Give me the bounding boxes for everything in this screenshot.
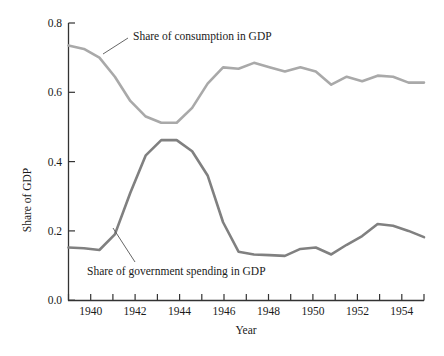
x-tick-label-1942: 1942 <box>124 305 147 317</box>
x-tick-label-1946: 1946 <box>213 305 236 317</box>
y-tick-label-0.2: 0.2 <box>48 225 63 237</box>
line-chart: 0.8 0.6 0.4 0.2 0.0 Share of GDP <box>0 0 444 356</box>
y-tick-label-0.8: 0.8 <box>48 17 63 29</box>
consumption-series-label: Share of consumption in GDP <box>133 30 272 43</box>
y-tick-label-0.6: 0.6 <box>48 86 63 98</box>
government-series-label: Share of government spending in GDP <box>87 265 266 278</box>
x-tick-label-1954: 1954 <box>390 305 413 317</box>
chart-figure: 0.8 0.6 0.4 0.2 0.0 Share of GDP <box>0 0 444 356</box>
y-tick-label-0.4: 0.4 <box>48 156 63 168</box>
chart-background <box>0 0 444 356</box>
x-axis-title: Year <box>235 324 256 336</box>
x-tick-label-1940: 1940 <box>79 305 102 317</box>
x-tick-label-1952: 1952 <box>346 305 369 317</box>
x-tick-label-1948: 1948 <box>257 305 280 317</box>
x-tick-label-1944: 1944 <box>168 305 191 317</box>
y-axis-title: Share of GDP <box>21 168 33 233</box>
y-tick-label-0.0: 0.0 <box>48 294 63 306</box>
x-tick-label-1950: 1950 <box>301 305 324 317</box>
